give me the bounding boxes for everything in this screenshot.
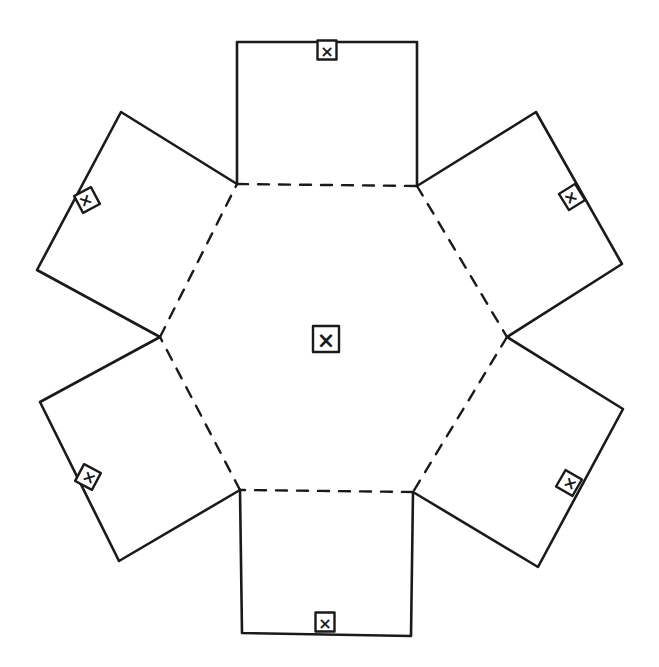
fold-line: [417, 186, 507, 337]
x-mark-icon: ×: [318, 614, 332, 633]
flap-upper-right-outline: [417, 112, 622, 337]
x-mark-icon: ×: [317, 327, 336, 353]
fold-line: [240, 490, 413, 492]
net-svg: ×××××××: [0, 0, 659, 667]
flap-lower-left-outline: [40, 337, 240, 561]
hexagon-net-diagram: ××××××× hexagonal-box-net Hand-drawn net…: [0, 0, 659, 667]
flap-upper-left-marker: ×: [73, 187, 100, 213]
fold-line: [160, 337, 240, 490]
center-marker: ×: [313, 326, 339, 353]
flap-top-marker: ×: [318, 41, 337, 61]
flap-bottom-marker: ×: [316, 613, 335, 633]
fold-line: [413, 337, 507, 492]
flap-upper-left-outline: [37, 112, 237, 337]
flap-upper-right-marker: ×: [558, 184, 585, 211]
fold-line: [237, 184, 417, 186]
flap-lower-left-marker: ×: [75, 464, 102, 490]
x-mark-icon: ×: [320, 42, 334, 61]
fold-line: [160, 184, 237, 337]
flap-top-outline: [237, 42, 417, 186]
flap-lower-right-outline: [413, 337, 623, 567]
